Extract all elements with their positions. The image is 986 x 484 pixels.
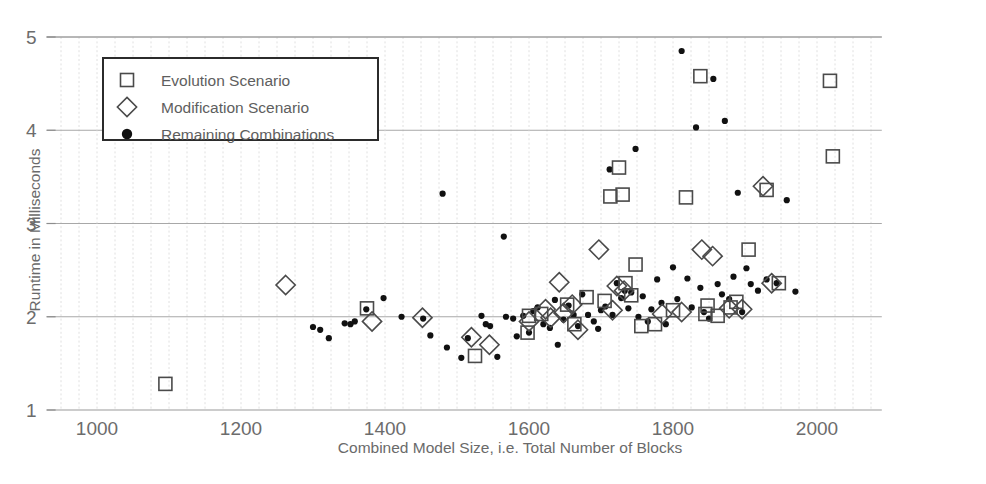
marker-dot [591, 318, 597, 324]
y-tick-label: 5 [26, 27, 37, 48]
marker-dot [514, 333, 520, 339]
marker-dot [648, 306, 654, 312]
chart-svg: 100012001400160018002000 12345 Combined … [0, 0, 986, 484]
legend-label: Evolution Scenario [161, 72, 290, 89]
marker-dot [352, 318, 358, 324]
x-axis-tick-labels: 100012001400160018002000 [76, 418, 838, 439]
y-tick-label: 1 [26, 400, 37, 421]
marker-dot [722, 118, 728, 124]
marker-dot [697, 285, 703, 291]
marker-dot [398, 314, 404, 320]
marker-dot [715, 281, 721, 287]
x-tick-label: 1200 [220, 418, 262, 439]
marker-dot [487, 323, 493, 329]
marker-dot [719, 291, 725, 297]
marker-dot [510, 316, 516, 322]
x-tick-label: 1000 [76, 418, 118, 439]
marker-square [823, 74, 836, 87]
legend-marker-circle-filled [122, 129, 132, 139]
tick-marks [47, 37, 56, 410]
marker-dot [380, 295, 386, 301]
x-tick-label: 2000 [796, 418, 838, 439]
marker-square [613, 161, 626, 174]
marker-dot [444, 344, 450, 350]
marker-square [159, 377, 172, 390]
marker-square [694, 70, 707, 83]
marker-square [604, 190, 617, 203]
marker-dot [501, 233, 507, 239]
marker-dot [478, 313, 484, 319]
marker-dot [755, 288, 761, 294]
marker-dot [420, 316, 426, 322]
marker-square [616, 188, 629, 201]
marker-dot [679, 48, 685, 54]
legend-label: Remaining Combinations [161, 126, 334, 143]
marker-dot [640, 293, 646, 299]
marker-dot [654, 276, 660, 282]
marker-dot [674, 296, 680, 302]
x-tick-label: 1600 [508, 418, 550, 439]
x-axis-title: Combined Model Size, i.e. Total Number o… [338, 439, 683, 456]
marker-dot [730, 274, 736, 280]
chart-legend: Evolution ScenarioModification ScenarioR… [103, 58, 378, 143]
marker-dot [503, 314, 509, 320]
marker-dot [494, 354, 500, 360]
marker-dot [743, 265, 749, 271]
marker-dot [684, 275, 690, 281]
marker-diamond [672, 302, 691, 321]
legend-label: Modification Scenario [161, 99, 309, 116]
marker-dot [632, 146, 638, 152]
marker-dot [625, 305, 631, 311]
marker-dot [555, 342, 561, 348]
marker-square [742, 243, 755, 256]
y-tick-label: 4 [26, 120, 37, 141]
marker-dot [595, 326, 601, 332]
marker-dot [458, 355, 464, 361]
marker-diamond [462, 328, 481, 347]
marker-dot [342, 320, 348, 326]
scatter-chart-figure: 100012001400160018002000 12345 Combined … [0, 0, 986, 484]
marker-diamond [276, 275, 295, 294]
marker-dot [552, 297, 558, 303]
marker-dot [326, 335, 332, 341]
marker-dot [363, 306, 369, 312]
marker-diamond [480, 335, 499, 354]
x-tick-label: 1400 [364, 418, 406, 439]
marker-square [629, 258, 642, 271]
marker-dot [735, 190, 741, 196]
marker-dot [693, 124, 699, 130]
marker-dot [784, 197, 790, 203]
marker-dot [670, 264, 676, 270]
marker-dot [739, 309, 745, 315]
marker-dot [440, 191, 446, 197]
marker-square [826, 150, 839, 163]
marker-dot [585, 312, 591, 318]
marker-dot [427, 332, 433, 338]
marker-dot [748, 281, 754, 287]
marker-diamond [589, 240, 608, 259]
y-axis-title: Runtime in Milliseconds [26, 148, 43, 311]
marker-square [679, 191, 692, 204]
marker-dot [710, 76, 716, 82]
marker-dot [317, 327, 323, 333]
marker-dot [792, 288, 798, 294]
x-tick-label: 1800 [652, 418, 694, 439]
marker-diamond [550, 273, 569, 292]
marker-dot [310, 324, 316, 330]
